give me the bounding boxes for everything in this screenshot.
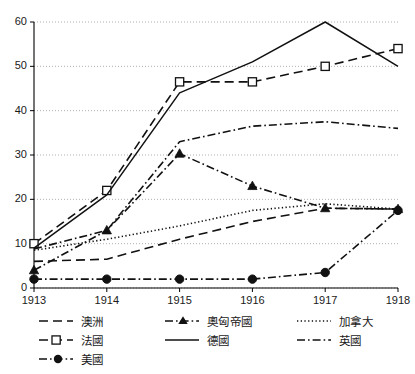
legend-column-2: 奧匈帝國德國 xyxy=(164,311,252,349)
x-tick-label: 1914 xyxy=(83,294,131,306)
data-point-marker xyxy=(30,275,38,283)
x-tick-label: 1917 xyxy=(301,294,349,306)
legend-line-sample-icon xyxy=(164,333,200,347)
legend-entry: 加拿大 xyxy=(296,311,373,330)
legend-line-sample-icon xyxy=(296,333,332,347)
x-tick-label: 1913 xyxy=(10,294,58,306)
series-line xyxy=(34,154,398,271)
legend-line-sample-icon xyxy=(164,314,200,328)
legend-line-sample-icon xyxy=(38,314,74,328)
data-point-marker xyxy=(248,181,257,189)
data-point-marker xyxy=(248,78,256,86)
legend-label: 奧匈帝國 xyxy=(207,313,252,329)
series-0 xyxy=(34,208,398,261)
legend-label: 加拿大 xyxy=(339,313,373,329)
y-tick-label: 50 xyxy=(0,59,27,71)
series-line xyxy=(34,210,398,279)
series-2 xyxy=(30,206,402,283)
series-4 xyxy=(34,22,398,248)
legend-marker xyxy=(52,335,60,343)
legend-entry: 奧匈帝國 xyxy=(164,311,252,330)
legend-label: 英國 xyxy=(339,332,362,348)
legend-label: 澳洲 xyxy=(81,313,104,329)
y-tick-label: 30 xyxy=(0,148,27,160)
data-point-marker xyxy=(103,275,111,283)
legend-column-3: 加拿大英國 xyxy=(296,311,373,349)
legend-line-sample-icon xyxy=(38,333,74,347)
data-point-marker xyxy=(175,149,184,157)
series-layer xyxy=(29,22,402,283)
series-line xyxy=(34,22,398,248)
data-point-marker xyxy=(175,275,183,283)
legend-label: 法國 xyxy=(81,332,104,348)
data-point-marker xyxy=(176,78,184,86)
x-tick-label: 1915 xyxy=(156,294,204,306)
legend-line-sample-icon xyxy=(296,314,332,328)
legend-marker xyxy=(54,354,62,362)
series-line xyxy=(34,208,398,261)
data-point-marker xyxy=(321,268,329,276)
data-point-marker xyxy=(29,265,38,273)
legend-label: 德國 xyxy=(207,332,230,348)
x-tick-label: 1918 xyxy=(374,294,415,306)
y-tick-label: 20 xyxy=(0,192,27,204)
legend-entry: 德國 xyxy=(164,330,252,349)
legend-entry: 澳洲 xyxy=(38,311,104,330)
x-tick-label: 1916 xyxy=(228,294,276,306)
legend-column-1: 澳洲法國美國 xyxy=(38,311,104,368)
y-tick-label: 10 xyxy=(0,237,27,249)
legend-line-sample-icon xyxy=(38,352,74,366)
legend-label: 美國 xyxy=(81,351,104,367)
legend-entry: 法國 xyxy=(38,330,104,349)
data-point-marker xyxy=(248,275,256,283)
chart-legend: 澳洲法國美國 奧匈帝國德國 加拿大英國 xyxy=(24,311,402,369)
series-1 xyxy=(30,45,402,248)
y-tick-label: 40 xyxy=(0,104,27,116)
legend-entry: 美國 xyxy=(38,349,104,368)
data-point-marker xyxy=(321,62,329,70)
data-point-marker xyxy=(394,45,402,53)
y-tick-label: 0 xyxy=(0,281,27,293)
y-tick-label: 60 xyxy=(0,15,27,27)
legend-entry: 英國 xyxy=(296,330,373,349)
